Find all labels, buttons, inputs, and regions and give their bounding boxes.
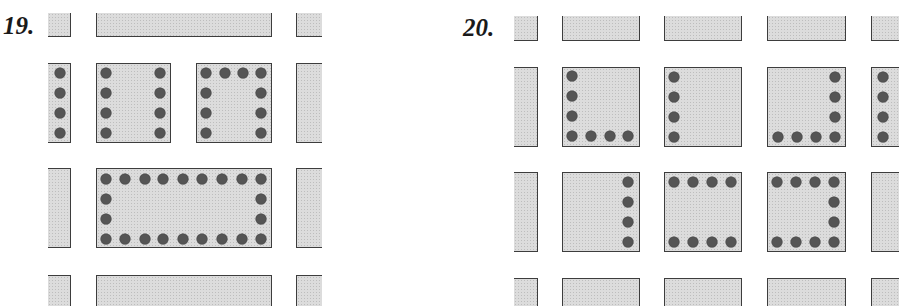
dot-marker: [201, 108, 212, 119]
p20-row2-left-partial-tile: [514, 67, 538, 147]
dot-marker: [155, 68, 166, 79]
dot-marker: [878, 132, 889, 143]
dot-marker: [201, 128, 212, 139]
dot-marker: [878, 92, 889, 103]
dot-marker: [237, 174, 248, 185]
p19-top-wide-tile: [96, 13, 272, 37]
dot-marker: [220, 68, 231, 79]
dot-marker: [773, 132, 784, 143]
dot-marker: [197, 174, 208, 185]
p20-top-left-partial-tile: [514, 16, 538, 41]
dot-marker: [878, 112, 889, 123]
p20-bottom-left-partial-tile: [514, 278, 538, 306]
p19-top-right-partial-tile: [296, 13, 322, 37]
dot-marker: [567, 111, 578, 122]
dot-marker: [688, 237, 699, 248]
dot-marker: [605, 131, 616, 142]
dot-marker: [623, 237, 634, 248]
dot-marker: [158, 234, 169, 245]
dot-marker: [829, 217, 840, 228]
dot-marker: [623, 131, 634, 142]
p20-row3-right-partial-tile: [871, 172, 899, 252]
dot-marker: [256, 234, 267, 245]
dot-marker: [120, 234, 131, 245]
p19-row3-left-partial-tile: [48, 168, 71, 248]
p20-top-1-tile: [562, 16, 640, 41]
p20-bottom-right-partial-tile: [871, 278, 899, 306]
dot-marker: [201, 68, 212, 79]
dot-marker: [178, 174, 189, 185]
dot-marker: [791, 177, 802, 188]
dot-marker: [726, 237, 737, 248]
puzzle-20-number: 20.: [463, 15, 494, 40]
dot-marker: [256, 128, 267, 139]
dot-marker: [197, 234, 208, 245]
p20-row3-left-partial-tile: [514, 172, 538, 252]
dot-marker: [811, 132, 822, 143]
dot-marker: [256, 108, 267, 119]
dot-marker: [829, 197, 840, 208]
dot-marker: [829, 177, 840, 188]
dot-marker: [567, 91, 578, 102]
p19-top-left-partial-tile: [48, 13, 71, 37]
dot-marker: [830, 92, 841, 103]
dot-marker: [669, 132, 680, 143]
p20-bottom-1-tile: [562, 278, 640, 306]
dot-marker: [140, 174, 151, 185]
dot-marker: [101, 234, 112, 245]
dot-marker: [567, 131, 578, 142]
dot-marker: [256, 68, 267, 79]
dot-marker: [669, 92, 680, 103]
dot-marker: [155, 128, 166, 139]
p20-top-3-tile: [767, 16, 846, 41]
dot-marker: [623, 177, 634, 188]
dot-marker: [217, 234, 228, 245]
dot-marker: [55, 88, 66, 99]
dot-marker: [217, 174, 228, 185]
dot-marker: [586, 131, 597, 142]
dot-marker: [101, 214, 112, 225]
dot-marker: [101, 194, 112, 205]
dot-marker: [707, 177, 718, 188]
dot-marker: [101, 88, 112, 99]
dot-marker: [238, 68, 249, 79]
dot-marker: [669, 72, 680, 83]
dot-marker: [878, 72, 889, 83]
dot-marker: [101, 108, 112, 119]
dot-marker: [567, 71, 578, 82]
dot-marker: [120, 174, 131, 185]
dot-marker: [237, 234, 248, 245]
dot-marker: [256, 174, 267, 185]
p20-top-2-tile: [664, 16, 742, 41]
dot-marker: [256, 214, 267, 225]
dot-marker: [201, 88, 212, 99]
dot-marker: [256, 194, 267, 205]
dot-marker: [772, 237, 783, 248]
puzzle-19-number: 19.: [3, 13, 34, 38]
dot-marker: [55, 128, 66, 139]
dot-marker: [158, 174, 169, 185]
dot-marker: [101, 128, 112, 139]
p19-bottom-wide-tile: [96, 275, 272, 306]
dot-marker: [669, 237, 680, 248]
p19-row3-right-partial-tile: [296, 168, 322, 248]
p19-row2-right-partial-tile: [296, 63, 322, 143]
p19-bottom-left-partial-tile: [48, 275, 71, 306]
dot-marker: [829, 237, 840, 248]
p20-bottom-3-tile: [767, 278, 846, 306]
dot-marker: [830, 112, 841, 123]
dot-marker: [830, 72, 841, 83]
dot-marker: [178, 234, 189, 245]
dot-marker: [669, 177, 680, 188]
dot-marker: [623, 217, 634, 228]
dot-marker: [810, 237, 821, 248]
dot-marker: [810, 177, 821, 188]
p20-bottom-2-tile: [664, 278, 742, 306]
dot-marker: [101, 68, 112, 79]
dot-marker: [792, 132, 803, 143]
dot-marker: [830, 132, 841, 143]
dot-marker: [155, 108, 166, 119]
dot-marker: [623, 197, 634, 208]
dot-marker: [101, 174, 112, 185]
dot-marker: [55, 68, 66, 79]
